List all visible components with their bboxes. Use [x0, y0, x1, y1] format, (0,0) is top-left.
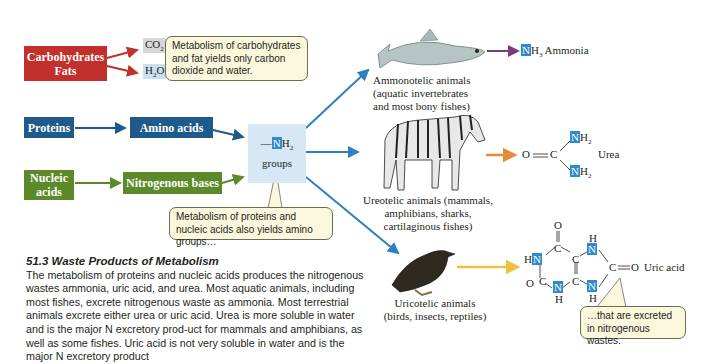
amino-acids-box: Amino acids	[130, 117, 213, 138]
acids-label: acids	[36, 185, 62, 199]
urea-nh2-top: NH2	[570, 131, 591, 146]
uric-n-top: N	[587, 243, 597, 255]
nucleic-label: Nucleic	[30, 171, 68, 185]
amino-groups-box: —NH2 groups	[248, 124, 306, 183]
amino-acids-label: Amino acids	[140, 121, 204, 135]
caption-body: The metabolism of proteins and nucleic a…	[26, 269, 366, 364]
uric-o-right: O	[631, 261, 639, 273]
uric-n-bottom: N	[587, 280, 597, 292]
uric-o-top: O	[554, 219, 562, 231]
carbohydrates-fats-box: CarbohydratesFats	[24, 46, 107, 81]
excreted-note-bubble: …that are excreted in nitrogenous wastes…	[580, 306, 686, 339]
uric-c-top: C	[554, 242, 561, 254]
uricotelic-caption: Uricotelic animals(birds, insects, repti…	[380, 297, 490, 323]
nitrogenous-bases-box: Nitrogenous bases	[123, 172, 222, 194]
uric-h-low: H	[555, 293, 563, 305]
uric-o-left: O	[526, 277, 534, 289]
nitrogenous-bases-label: Nitrogenous bases	[126, 176, 219, 190]
ureotelic-caption: Ureotelic animals (mammals,amphibians, s…	[358, 194, 498, 233]
ammonotelic-caption: Ammonotelic animals(aquatic invertebrate…	[373, 74, 470, 113]
proteins-label: Proteins	[28, 121, 70, 135]
ammonia-formula: NH3 Ammonia	[521, 44, 589, 59]
urea-c: C	[550, 148, 557, 160]
urea-name: Urea	[598, 148, 619, 160]
fats-label: Fats	[55, 64, 77, 78]
urea-nh2-bottom: NH2	[570, 165, 591, 180]
uric-c-low: C	[572, 275, 579, 287]
h2o-label: H2O	[143, 64, 166, 79]
amino-groups-note-bubble: Metabolism of proteins and nucleic acids…	[169, 207, 333, 240]
co2-label: CO2	[143, 38, 166, 53]
uric-n-low: N	[553, 281, 563, 293]
figure-caption: 51.3 Waste Products of Metabolism The me…	[26, 255, 366, 364]
urea-o: O	[522, 148, 530, 160]
uric-c-right: C	[609, 261, 616, 273]
section-title: 51.3 Waste Products of Metabolism	[26, 255, 366, 269]
uric-h-bottom: H	[589, 292, 597, 304]
carbohydrates-label: Carbohydrates	[27, 50, 104, 64]
uric-acid-name: Uric acid	[644, 261, 685, 273]
uric-hn: HN	[524, 253, 542, 265]
nucleic-acids-box: Nucleicacids	[24, 170, 74, 200]
proteins-box: Proteins	[24, 117, 74, 138]
uric-c-mid: C	[572, 253, 579, 265]
uric-c-left: C	[539, 275, 546, 287]
carbs-note-bubble: Metabolism of carbohydrates and fat yiel…	[165, 36, 308, 81]
